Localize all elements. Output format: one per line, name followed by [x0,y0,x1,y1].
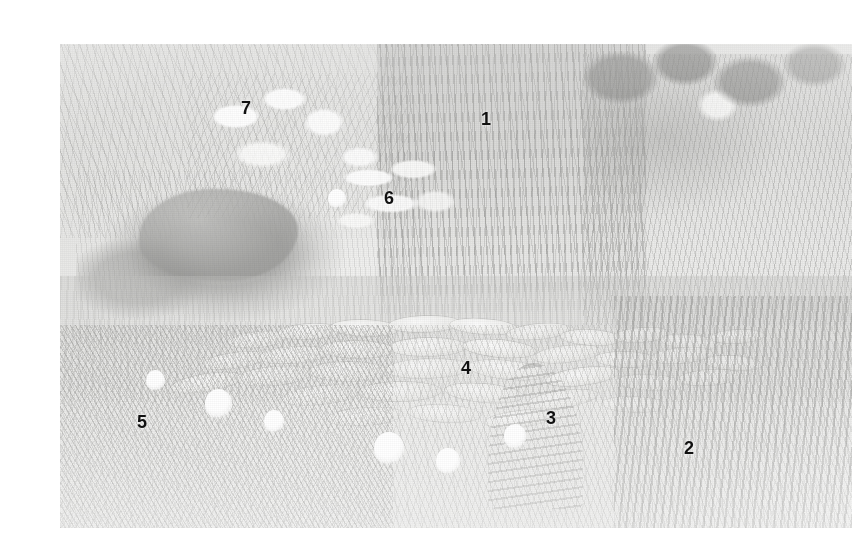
label-5: 5 [137,413,147,431]
label-4: 4 [461,359,471,377]
label-2: 2 [684,439,694,457]
annotated-photograph: 1234567 [60,44,852,528]
label-3: 3 [546,409,556,427]
label-7: 7 [241,99,251,117]
label-1: 1 [481,110,491,128]
annotation-layer: 1234567 [60,44,852,528]
label-6: 6 [384,189,394,207]
